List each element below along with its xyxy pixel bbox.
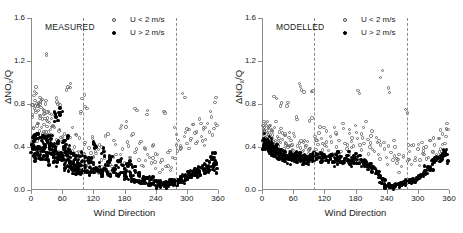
data-point-high-wind [198,171,201,174]
data-point-high-wind [74,154,77,157]
data-point-low-wind [268,131,271,134]
data-point-high-wind [301,154,304,157]
data-point-low-wind [43,134,46,137]
data-point-low-wind [108,156,111,159]
data-point-high-wind [45,151,48,154]
data-point-high-wind [59,153,62,156]
x-axis-title-measured: Wind Direction [31,207,218,218]
data-point-low-wind [56,150,59,153]
data-point-high-wind [63,158,66,161]
data-point-low-wind [437,155,440,158]
data-point-high-wind [335,157,338,160]
data-point-high-wind [196,175,199,178]
data-point-high-wind [301,157,304,160]
data-point-high-wind [102,169,105,172]
data-point-high-wind [329,155,332,158]
data-point-low-wind [269,140,272,143]
data-point-high-wind [93,170,96,173]
data-point-high-wind [38,157,41,160]
reference-vline [407,18,408,190]
data-point-low-wind [124,125,127,128]
data-point-high-wind [271,153,274,156]
data-point-high-wind [395,183,398,186]
data-point-high-wind [343,157,346,160]
data-point-low-wind [277,137,280,140]
data-point-low-wind [402,154,405,157]
data-point-high-wind [319,151,322,154]
data-point-low-wind [265,138,268,141]
data-point-high-wind [295,160,298,163]
data-point-high-wind [283,157,286,160]
data-point-low-wind [114,143,117,146]
data-point-low-wind [117,161,120,164]
data-point-low-wind [63,160,66,163]
data-point-high-wind [389,185,392,188]
data-point-high-wind [300,155,303,158]
data-point-high-wind [92,163,95,166]
data-point-high-wind [300,158,303,161]
data-point-high-wind [109,173,112,176]
data-point-high-wind [415,179,418,182]
data-point-low-wind [270,129,273,132]
data-point-high-wind [66,165,69,168]
data-point-high-wind [106,172,109,175]
data-point-high-wind [444,150,447,153]
data-point-high-wind [39,157,42,160]
data-point-high-wind [33,159,36,162]
data-point-low-wind [297,159,300,162]
data-point-high-wind [422,171,425,174]
data-point-low-wind [383,147,386,150]
data-point-high-wind [412,179,415,182]
data-point-low-wind [181,92,184,95]
data-point-high-wind [215,163,218,166]
data-point-high-wind [336,150,339,153]
data-point-high-wind [324,159,327,162]
data-point-low-wind [125,120,128,123]
data-point-low-wind [179,144,182,147]
data-point-low-wind [381,69,384,72]
data-point-high-wind [65,143,68,146]
data-point-high-wind [193,173,196,176]
data-point-high-wind [402,182,405,185]
data-point-low-wind [69,136,72,139]
data-point-high-wind [318,156,321,159]
data-point-high-wind [439,159,442,162]
data-point-high-wind [168,181,171,184]
data-point-high-wind [197,166,200,169]
data-point-high-wind [325,158,328,161]
data-point-high-wind [358,154,361,157]
data-point-high-wind [288,158,291,161]
data-point-low-wind [293,135,296,138]
data-point-high-wind [115,172,118,175]
data-point-low-wind [45,54,48,57]
data-point-low-wind [37,122,40,125]
x-tick-label: 240 [149,195,162,203]
data-point-high-wind [288,156,291,159]
data-point-high-wind [192,169,195,172]
data-point-high-wind [138,171,141,174]
data-point-high-wind [56,153,59,156]
data-point-high-wind [64,146,67,149]
data-point-low-wind [196,140,199,143]
data-point-high-wind [379,175,382,178]
data-point-high-wind [49,137,52,140]
data-point-high-wind [129,163,132,166]
x-tick-label: 180 [349,195,362,203]
data-point-high-wind [58,111,61,114]
data-point-high-wind [333,165,336,168]
data-point-low-wind [264,136,267,139]
data-point-high-wind [375,172,378,175]
data-point-low-wind [46,116,49,119]
data-point-low-wind [126,140,129,143]
data-point-high-wind [265,144,268,147]
data-point-high-wind [74,172,77,175]
data-point-low-wind [179,146,182,149]
data-point-high-wind [334,158,337,161]
data-point-low-wind [48,145,51,148]
data-point-high-wind [144,182,147,185]
y-axis-line [262,18,263,190]
data-point-high-wind [303,153,306,156]
data-point-low-wind [156,153,159,156]
data-point-high-wind [151,177,154,180]
data-point-high-wind [299,155,302,158]
